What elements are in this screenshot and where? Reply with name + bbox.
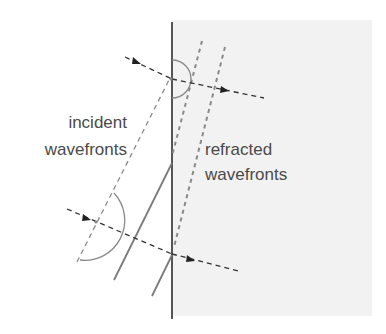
incident-wavefront-dashed <box>77 78 170 262</box>
angle-arc-lower <box>80 193 125 260</box>
intersection-dot <box>94 220 97 223</box>
incident-wavefront-solid <box>114 163 172 280</box>
refraction-diagram: incident wavefronts refracted wavefronts <box>0 0 386 334</box>
refracted-label-line2: wavefronts <box>204 165 287 184</box>
ray-upper-incident <box>125 57 172 79</box>
refracted-label-line1: refracted <box>205 140 272 159</box>
intersection-dot <box>169 77 172 80</box>
incident-label-line2: wavefronts <box>44 140 127 159</box>
incident-wavefront-solid-lower <box>152 255 172 296</box>
incident-label-line1: incident <box>68 113 127 132</box>
arrow-icon <box>82 214 91 221</box>
arrow-icon <box>132 57 141 64</box>
